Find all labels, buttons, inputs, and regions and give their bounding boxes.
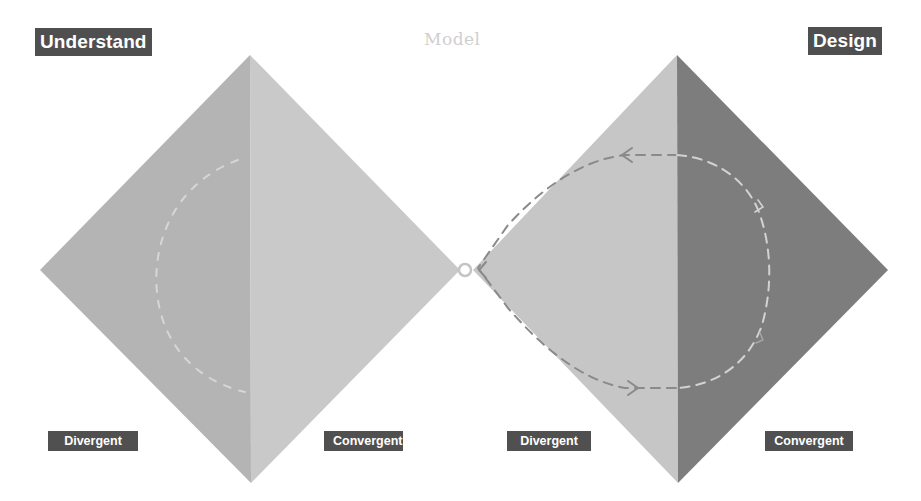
junction-circle-icon [459, 264, 471, 276]
stage-label-design: Design [808, 27, 882, 55]
phase-label-design-convergent: Convergent [765, 431, 853, 451]
double-diamond-diagram: Understand Model Design Divergent Conver… [0, 0, 921, 501]
phase-label-understand-divergent: Divergent [48, 431, 138, 451]
diagram-graphics [0, 0, 921, 501]
stage-label-model: Model [424, 29, 481, 49]
design-divergent-half [473, 55, 678, 483]
phase-label-understand-convergent: Convergent [324, 431, 403, 451]
understand-diamond [40, 55, 460, 483]
design-diamond [473, 55, 888, 483]
understand-divergent-half [40, 55, 251, 483]
understand-convergent-half [250, 55, 460, 483]
stage-label-understand: Understand [35, 28, 152, 56]
phase-label-design-divergent: Divergent [507, 431, 591, 451]
design-convergent-half [677, 55, 888, 483]
